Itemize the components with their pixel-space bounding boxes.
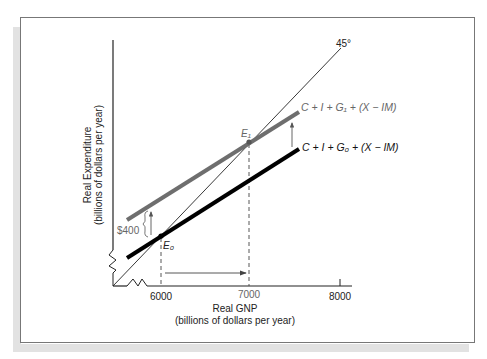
label-g0: C + I + G₀ + (X − IM) xyxy=(302,141,399,153)
chart: 45° $400 E₀ E₁ C + I + G₁ + (X − IM) C +… xyxy=(0,0,487,359)
x-tick-label-8000: 8000 xyxy=(329,291,352,302)
line-45-degree xyxy=(113,48,341,286)
label-e1: E₁ xyxy=(241,128,251,139)
point-e1 xyxy=(246,139,251,144)
label-45: 45° xyxy=(336,38,351,49)
brace-400 xyxy=(143,211,148,237)
y-axis xyxy=(109,40,116,286)
point-e0 xyxy=(158,233,163,238)
x-axis-subtitle: (billions of dollars per year) xyxy=(175,315,295,326)
x-tick-label-6000: 6000 xyxy=(150,291,173,302)
x-tick-label-7000: 7000 xyxy=(238,289,261,300)
label-400: $400 xyxy=(117,225,140,236)
x-axis-title: Real GNP xyxy=(212,303,257,314)
x-axis xyxy=(113,279,352,286)
y-axis-subtitle: (billions of dollars per year) xyxy=(93,105,104,225)
label-e0: E₀ xyxy=(163,240,174,251)
label-g1: C + I + G₁ + (X − IM) xyxy=(301,101,397,113)
y-axis-title: Real Expenditure xyxy=(82,126,93,203)
